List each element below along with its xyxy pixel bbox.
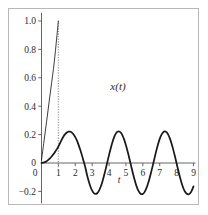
y-tick-label: 0.2 — [24, 130, 36, 140]
curve-group — [42, 21, 194, 194]
x-tick-label: 1 — [56, 168, 61, 178]
x-tick-label: 6 — [140, 168, 145, 178]
y-tick-label: 0.4 — [24, 102, 36, 112]
tick-group: −0.200.20.40.60.81.00123456789 — [19, 16, 196, 196]
x-tick-label: 4 — [107, 168, 112, 178]
y-tick-label: 0.8 — [24, 45, 36, 55]
x-tick-label: 7 — [157, 168, 162, 178]
x-tick-label: 2 — [73, 168, 78, 178]
curve-label-xt: x(t) — [109, 80, 126, 93]
x-tick-label: 9 — [191, 168, 196, 178]
y-tick-label: 0.6 — [24, 73, 36, 83]
y-tick-label: 0 — [31, 158, 36, 168]
plot-area: −0.200.20.40.60.81.00123456789 x(t) t — [0, 0, 208, 215]
y-tick-label: −0.2 — [19, 187, 36, 197]
curve-ramp-segment — [42, 21, 59, 160]
x-tick-label: 5 — [124, 168, 129, 178]
x-axis-label: t — [118, 175, 121, 185]
x-tick-label: 3 — [90, 168, 95, 178]
chart-figure: −0.200.20.40.60.81.00123456789 x(t) t — [0, 0, 208, 215]
y-tick-label: 1.0 — [24, 16, 36, 26]
x-tick-label: 0 — [33, 168, 38, 178]
